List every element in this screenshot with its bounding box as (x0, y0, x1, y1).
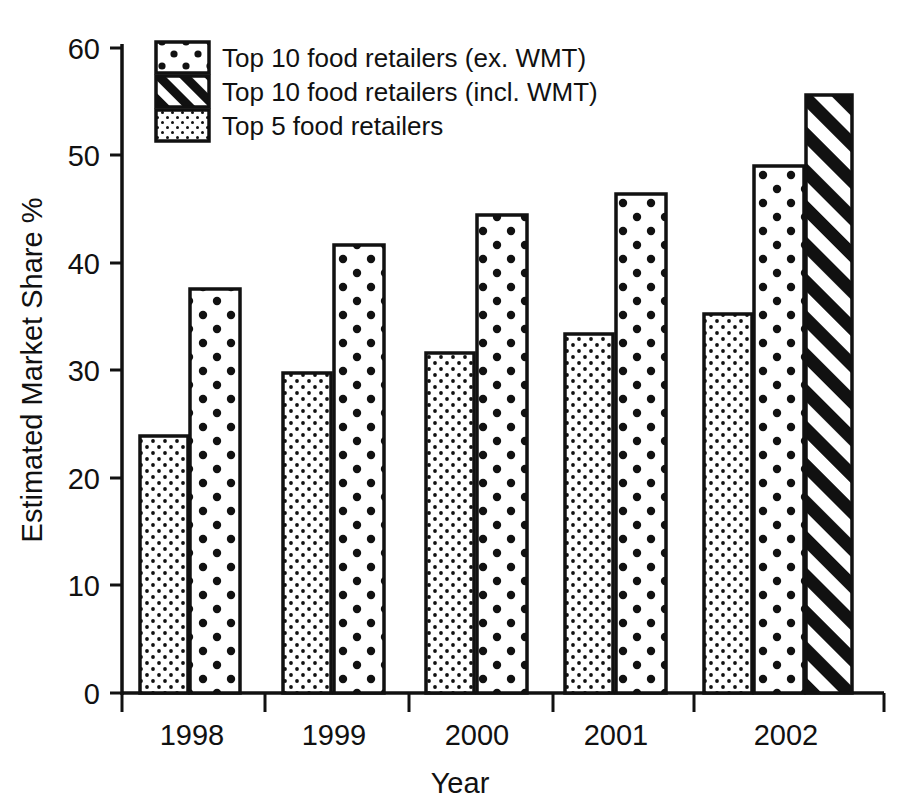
legend-swatch-diagonal-hatch (156, 76, 209, 107)
bar-1998-top10-ex-wmt (190, 289, 240, 693)
bar-2001-top5 (565, 334, 613, 693)
legend-item-top10-incl-wmt: Top 10 food retailers (incl. WMT) (156, 76, 598, 107)
y-tick-label-30: 30 (68, 355, 100, 387)
bars-group-2001 (565, 194, 666, 693)
x-tick-labels: 1998 1999 2000 2001 2002 (160, 719, 819, 751)
y-tick-labels: 60 50 40 30 20 10 0 (68, 33, 100, 710)
legend-swatch-coarse-dots (156, 42, 209, 73)
bar-1999-top5 (283, 373, 331, 693)
y-axis-title: Estimated Market Share % (16, 198, 48, 543)
bars-group-2002 (704, 95, 852, 693)
y-tick-label-60: 60 (68, 33, 100, 65)
chart-canvas: 60 50 40 30 20 10 0 Estimated Market Sha… (0, 0, 912, 810)
y-tick-label-20: 20 (68, 463, 100, 495)
y-tick-label-0: 0 (84, 678, 100, 710)
bars-group-2000 (426, 215, 527, 693)
x-axis (122, 693, 884, 712)
bar-2000-top10-ex-wmt (477, 215, 527, 693)
y-tick-label-50: 50 (68, 140, 100, 172)
x-tick-label-1998: 1998 (160, 719, 225, 751)
bar-chart-figure: 60 50 40 30 20 10 0 Estimated Market Sha… (0, 0, 912, 810)
bar-2002-top10-incl-wmt (806, 95, 852, 693)
legend-swatch-fine-dots (156, 110, 209, 141)
y-tick-label-10: 10 (68, 570, 100, 602)
chart-legend: Top 10 food retailers (ex. WMT) Top 10 f… (156, 42, 598, 141)
legend-item-top5: Top 5 food retailers (156, 110, 443, 141)
bar-2001-top10-ex-wmt (616, 194, 666, 693)
bar-1998-top5 (140, 436, 188, 693)
bar-2002-top5 (704, 314, 752, 693)
legend-label-top10-ex-wmt: Top 10 food retailers (ex. WMT) (222, 43, 586, 73)
bars-group-1998 (140, 289, 240, 693)
bar-1999-top10-ex-wmt (334, 245, 384, 693)
bars-group-1999 (283, 245, 384, 693)
legend-item-top10-ex-wmt: Top 10 food retailers (ex. WMT) (156, 42, 586, 73)
y-tick-label-40: 40 (68, 248, 100, 280)
x-tick-label-1999: 1999 (302, 719, 367, 751)
x-tick-label-2002: 2002 (754, 719, 819, 751)
y-axis (110, 44, 122, 695)
legend-label-top5: Top 5 food retailers (222, 111, 443, 141)
bar-2002-top10-ex-wmt (754, 166, 804, 693)
x-tick-label-2000: 2000 (445, 719, 510, 751)
legend-label-top10-incl-wmt: Top 10 food retailers (incl. WMT) (222, 77, 598, 107)
x-axis-title: Year (431, 767, 490, 799)
x-tick-label-2001: 2001 (584, 719, 649, 751)
bar-2000-top5 (426, 353, 474, 693)
